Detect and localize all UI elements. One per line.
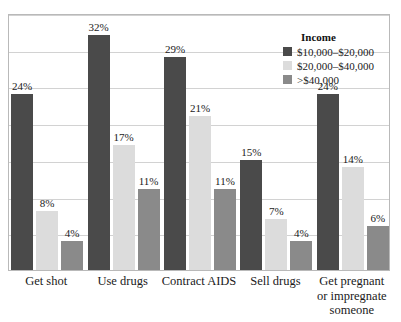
x-axis-label-line: Sell drugs (237, 274, 313, 289)
x-axis-label-line: Contract AIDS (161, 274, 237, 289)
chart-legend: Income $10,000–$20,000$20,000–$40,000>$4… (283, 31, 401, 87)
bar[interactable] (214, 189, 236, 270)
bar[interactable] (317, 94, 339, 270)
bar-wrap: 17% (113, 15, 135, 270)
x-axis-label: Get shot (8, 274, 84, 289)
bar-group: 24%8%4% (9, 15, 85, 270)
bar-group: 29%21%11% (162, 15, 238, 270)
bar-wrap: 29% (164, 15, 186, 270)
legend-rows: $10,000–$20,000$20,000–$40,000>$40,000 (283, 45, 401, 86)
legend-swatch-icon (283, 75, 292, 84)
x-axis-label-line: someone (314, 303, 390, 318)
x-axis-label: Use drugs (84, 274, 160, 289)
bar[interactable] (367, 226, 389, 270)
legend-label: $20,000–$40,000 (297, 60, 374, 72)
x-axis-label-line: or impregnate (314, 289, 390, 304)
bar[interactable] (88, 35, 110, 270)
bar-wrap: 4% (61, 15, 83, 270)
bar-group: 32%17%11% (85, 15, 161, 270)
bar-value-label: 6% (355, 213, 401, 224)
x-axis-label: Sell drugs (237, 274, 313, 289)
bar-wrap: 15% (240, 15, 262, 270)
x-axis-label-line: Use drugs (84, 274, 160, 289)
bar-wrap: 21% (189, 15, 211, 270)
bar-wrap: 11% (214, 15, 236, 270)
legend-label: $10,000–$20,000 (297, 46, 374, 58)
bar[interactable] (265, 219, 287, 270)
x-axis-label: Contract AIDS (161, 274, 237, 289)
legend-swatch-icon (283, 47, 292, 56)
bar[interactable] (138, 189, 160, 270)
bar[interactable] (113, 145, 135, 270)
legend-title: Income (301, 31, 401, 44)
legend-item[interactable]: >$40,000 (283, 73, 401, 86)
bar[interactable] (61, 241, 83, 270)
bar[interactable] (290, 241, 312, 270)
plot-area: 24%8%4%32%17%11%29%21%11%15%7%4%24%14%6%… (8, 14, 390, 271)
bar[interactable] (36, 211, 58, 270)
x-axis-labels: Get shotUse drugsContract AIDSSell drugs… (8, 274, 390, 322)
bar[interactable] (164, 57, 186, 270)
bar[interactable] (189, 116, 211, 270)
legend-swatch-icon (283, 61, 292, 70)
legend-label: >$40,000 (297, 74, 339, 86)
x-axis-label-line: Get shot (8, 274, 84, 289)
bar-chart: 24%8%4%32%17%11%29%21%11%15%7%4%24%14%6%… (0, 0, 401, 322)
legend-item[interactable]: $20,000–$40,000 (283, 59, 401, 72)
bar[interactable] (11, 94, 33, 270)
legend-item[interactable]: $10,000–$20,000 (283, 45, 401, 58)
x-axis-label: Get pregnantor impregnatesomeone (314, 274, 390, 318)
bar-wrap: 24% (11, 15, 33, 270)
x-axis-label-line: Get pregnant (314, 274, 390, 289)
